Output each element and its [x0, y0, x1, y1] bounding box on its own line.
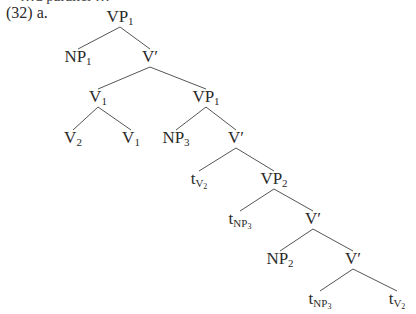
node-category: V′: [228, 128, 244, 147]
node-index: V2: [393, 297, 405, 309]
tree-edge: [78, 27, 120, 49]
tree-node: tNP3: [229, 210, 252, 236]
tree-node: V′: [142, 48, 158, 66]
tree-node: V′: [305, 210, 321, 228]
node-index: 1: [101, 95, 107, 107]
tree-node: V2: [64, 129, 82, 151]
tree-node: V′: [228, 129, 244, 147]
node-category: V′: [142, 47, 158, 66]
tree-edge: [206, 107, 236, 130]
tree-node: NP2: [266, 250, 293, 272]
node-subindex: 3: [327, 302, 331, 311]
tree-node: VP1: [106, 8, 133, 30]
node-category: VP: [106, 7, 128, 26]
tree-edge: [280, 229, 313, 251]
tree-edge: [274, 189, 313, 211]
tree-edge: [120, 27, 150, 49]
node-category: NP: [64, 47, 86, 66]
node-index: 1: [128, 15, 134, 27]
node-index: 3: [184, 136, 190, 148]
tree-edge: [98, 67, 150, 89]
node-index: 2: [288, 257, 294, 269]
node-index: 1: [134, 136, 140, 148]
tree-edge: [353, 269, 397, 291]
node-category: V′: [345, 249, 361, 268]
node-category: V′: [305, 209, 321, 228]
tree-node: VP2: [260, 170, 287, 192]
node-category: NP: [162, 128, 184, 147]
node-index: 1: [214, 95, 220, 107]
node-index: 2: [76, 136, 82, 148]
node-index: NP3: [313, 297, 331, 309]
node-subindex: 2: [203, 182, 207, 191]
tree-node: V1: [122, 129, 140, 151]
tree-edge: [320, 269, 353, 291]
tree-edge: [98, 107, 131, 130]
node-category: V: [122, 128, 134, 147]
tree-node: NP1: [64, 48, 91, 70]
tree-node: tV2: [191, 170, 208, 196]
tree-edge: [240, 189, 274, 211]
node-category: V: [89, 87, 101, 106]
node-index: NP3: [233, 217, 251, 229]
node-category: NP: [266, 249, 288, 268]
tree-node: tNP3: [309, 290, 332, 314]
node-subindex: 2: [401, 302, 405, 311]
tree-edge: [236, 148, 274, 171]
tree-edge: [150, 67, 206, 89]
tree-edge: [73, 107, 98, 130]
tree-node: tV2: [389, 290, 406, 314]
node-index: 2: [282, 177, 288, 189]
node-index: 1: [86, 55, 92, 67]
tree-node: NP3: [162, 129, 189, 151]
node-index: V2: [195, 177, 207, 189]
tree-edge: [199, 148, 236, 171]
node-subindex: 3: [247, 222, 251, 231]
node-category: VP: [192, 87, 214, 106]
tree-node: VP1: [192, 88, 219, 110]
tree-edge: [313, 229, 353, 251]
tree-node: V′: [345, 250, 361, 268]
tree-edge: [176, 107, 206, 130]
tree-node: V1: [89, 88, 107, 110]
node-category: V: [64, 128, 76, 147]
node-category: VP: [260, 169, 282, 188]
